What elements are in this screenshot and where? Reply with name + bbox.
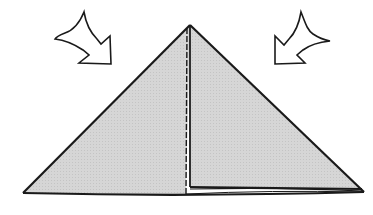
paper-triangle xyxy=(23,25,364,195)
fold-arrow-left-icon xyxy=(55,12,111,64)
center-crease xyxy=(186,28,187,194)
diagram-canvas xyxy=(0,0,373,215)
origami-diagram xyxy=(0,0,373,215)
fold-arrow-right-icon xyxy=(275,12,330,64)
